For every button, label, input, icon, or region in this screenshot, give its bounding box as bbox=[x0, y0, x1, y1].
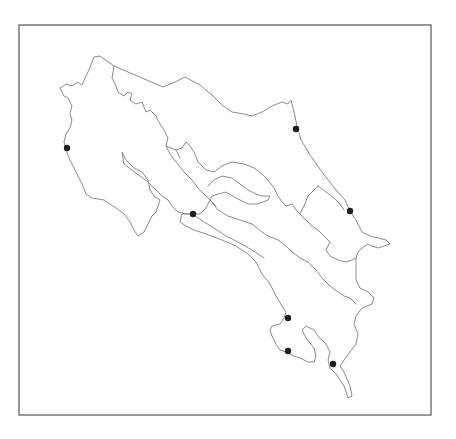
marker-east-coast bbox=[347, 208, 353, 214]
marker-north-east-coast bbox=[293, 126, 299, 132]
marker-gulf bbox=[190, 211, 196, 217]
map-canvas bbox=[0, 0, 456, 439]
marker-west-coast bbox=[64, 145, 70, 151]
marker-south-1 bbox=[285, 315, 291, 321]
marker-south-2 bbox=[285, 348, 291, 354]
marker-south-3 bbox=[330, 361, 336, 367]
